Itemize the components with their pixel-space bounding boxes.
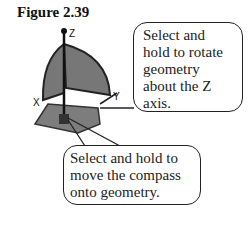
callout-line: onto geometry. xyxy=(70,184,200,201)
rotate-callout: Select and hold to rotate geometry about… xyxy=(133,22,243,112)
callout-line: Select and xyxy=(143,27,242,44)
callout-line: about the Z xyxy=(143,78,242,95)
z-axis-handle-icon[interactable] xyxy=(61,28,67,34)
move-callout: Select and hold to move the compass onto… xyxy=(63,145,201,205)
callout-line: hold to rotate xyxy=(143,44,242,61)
z-axis-label: Z xyxy=(69,28,75,39)
callout-line: Select and hold to xyxy=(70,150,200,167)
callout-line: axis. xyxy=(143,95,242,112)
move-handle[interactable] xyxy=(59,114,69,124)
x-axis-label: X xyxy=(33,97,40,108)
rotate-handle[interactable] xyxy=(64,44,110,95)
callout-line: move the compass xyxy=(70,167,200,184)
y-axis-label: Y xyxy=(113,91,120,102)
callout-line: geometry xyxy=(143,61,242,78)
